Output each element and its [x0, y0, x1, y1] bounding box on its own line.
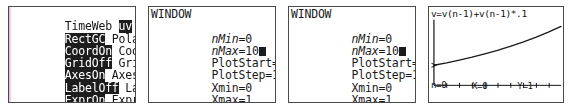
window-1-entry-xmin[interactable]: Xmin=0 [151, 69, 275, 81]
menu-row-axes[interactable]: AxesOn AxesOff [11, 57, 135, 69]
sequence-curve [434, 26, 561, 65]
window-1-entry-plotstep[interactable]: PlotStep=1 [151, 57, 275, 69]
graph-trace-x: X=0 [472, 81, 487, 91]
calculator-screen-window-1[interactable]: WINDOW nMin=0 nMax=10 PlotStart=1 PlotSt… [148, 6, 276, 103]
window-2-entry-nmax[interactable]: nMax=10 [291, 33, 415, 45]
menu-row-expr[interactable]: ExprOn ExprOff [11, 82, 135, 94]
window-2-entry-nmin[interactable]: nMin=0 [291, 20, 415, 32]
window-1-entry-nmin[interactable]: nMin=0 [151, 20, 275, 32]
menu-option-exproff[interactable]: ExprOff [105, 94, 136, 103]
window-1-entry-nmax[interactable]: nMax=10 [151, 33, 275, 45]
menu-row-grid[interactable]: GridOff GridOn [11, 45, 135, 57]
menu-row-coord[interactable]: CoordOn CoordOff [11, 33, 135, 45]
window-1-heading: WINDOW [151, 8, 275, 20]
window-2-heading: WINDOW [291, 8, 415, 20]
window-2-lines: WINDOW nMin=0 nMax=10 PlotStart=1 PlotSt… [291, 8, 415, 102]
graph-trace-y: Y=1 [517, 81, 532, 91]
window-2-entry-xmin[interactable]: Xmin=0 [291, 69, 415, 81]
graph-area: v=v(n-1)+v(n-1)*.1 [429, 7, 563, 102]
calculator-screen-window-2[interactable]: WINDOW nMin=0 nMax=10 PlotStart=1 PlotSt… [288, 6, 416, 103]
menu-row-graph-coords[interactable]: RectGC PolarGC [11, 20, 135, 32]
calculator-screen-graph[interactable]: v=v(n-1)+v(n-1)*.1 [428, 6, 564, 103]
format-menu-lines: TimeWeb uv vw uw RectGC PolarGC CoordOn … [11, 8, 135, 102]
calculator-screen-format-menu[interactable]: TimeWeb uv vw uw RectGC PolarGC CoordOn … [8, 6, 136, 103]
window-1-entry-plotstart[interactable]: PlotStart=1 [151, 45, 275, 57]
window-2-entry-plotstep[interactable]: PlotStep=1 [291, 57, 415, 69]
graph-trace-coordinates: X=0Y=1 [431, 73, 533, 100]
menu-row-timeweb[interactable]: TimeWeb uv vw uw [11, 8, 135, 20]
window-1-lines: WINDOW nMin=0 nMax=10 PlotStart=1 PlotSt… [151, 8, 275, 102]
window-2-entry-xscl[interactable]: ↓Xscl=.1 [291, 94, 415, 103]
window-1-entry-xscl[interactable]: ↓Xscl=.1 [151, 94, 275, 103]
menu-row-label[interactable]: LabelOff LabelOn [11, 69, 135, 81]
window-1-entry-xmax[interactable]: Xmax=1 [151, 82, 275, 94]
calculator-screenshot-strip: TimeWeb uv vw uw RectGC PolarGC CoordOn … [0, 0, 570, 109]
menu-option-expron[interactable]: ExprOn [65, 94, 105, 103]
window-2-entry-plotstart[interactable]: PlotStart=1 [291, 45, 415, 57]
window-2-entry-xmax[interactable]: Xmax=1 [291, 82, 415, 94]
